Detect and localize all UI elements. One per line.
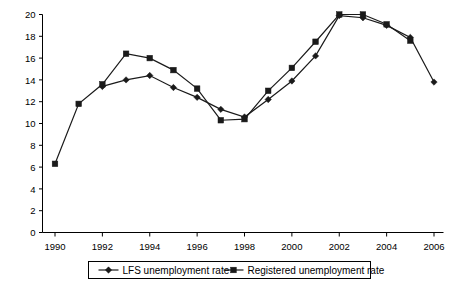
x-tick-label: 1992 — [92, 241, 113, 252]
y-tick-label: 16 — [25, 53, 36, 64]
unemployment-rate-line-chart: 0246810121416182019901992199419961998200… — [0, 0, 458, 290]
data-point-marker — [123, 51, 129, 57]
data-point-marker — [123, 77, 129, 83]
data-point-marker — [171, 67, 177, 73]
x-tick-label: 1990 — [44, 241, 65, 252]
data-point-marker — [52, 161, 58, 167]
y-tick-label: 2 — [30, 205, 35, 216]
data-point-marker — [408, 38, 414, 44]
series-lfs — [99, 12, 437, 120]
data-point-marker — [147, 55, 153, 61]
data-point-marker — [100, 81, 106, 87]
data-point-marker — [170, 84, 176, 90]
y-tick-label: 6 — [30, 162, 35, 173]
y-tick-label: 18 — [25, 31, 36, 42]
data-point-marker — [218, 106, 224, 112]
y-tick-label: 0 — [30, 227, 35, 238]
data-point-marker — [360, 12, 366, 18]
x-tick-label: 1994 — [139, 241, 160, 252]
data-point-marker — [147, 72, 153, 78]
data-point-marker — [194, 86, 200, 92]
y-axis-ticks: 02468101214161820 — [25, 9, 43, 238]
y-tick-label: 8 — [30, 140, 35, 151]
data-point-marker — [431, 79, 437, 85]
x-tick-label: 1996 — [187, 241, 208, 252]
y-tick-label: 10 — [25, 118, 36, 129]
y-tick-label: 20 — [25, 9, 36, 20]
x-tick-label: 2006 — [423, 241, 444, 252]
legend-label-registered: Registered unemployment rate — [248, 265, 385, 276]
data-point-marker — [194, 94, 200, 100]
series-registered — [52, 12, 413, 167]
data-point-marker — [313, 39, 319, 45]
data-point-marker — [242, 116, 248, 122]
y-tick-label: 12 — [25, 96, 36, 107]
series-line — [55, 15, 410, 164]
chart-legend: LFS unemployment rateRegistered unemploy… — [89, 262, 385, 279]
data-point-marker — [384, 22, 390, 28]
data-point-marker — [289, 65, 295, 71]
y-tick-label: 14 — [25, 75, 36, 86]
data-point-marker — [76, 101, 82, 107]
x-tick-label: 2004 — [376, 241, 397, 252]
x-tick-label: 2000 — [281, 241, 302, 252]
legend-label-lfs: LFS unemployment rate — [123, 265, 230, 276]
data-point-marker — [336, 12, 342, 18]
x-tick-label: 1998 — [234, 241, 255, 252]
legend-marker-registered — [231, 267, 237, 273]
x-axis-ticks: 199019921994199619982000200220042006 — [44, 233, 444, 252]
data-point-marker — [265, 88, 271, 94]
chart-canvas: 0246810121416182019901992199419961998200… — [0, 0, 458, 290]
x-tick-label: 2002 — [329, 241, 350, 252]
axes-group — [43, 15, 444, 233]
y-tick-label: 4 — [30, 184, 35, 195]
data-point-marker — [218, 117, 224, 123]
